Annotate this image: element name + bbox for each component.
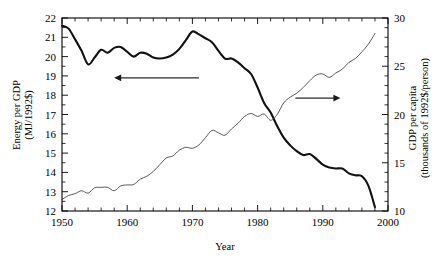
left-axis-title-line1: Energy per GDP <box>11 80 22 150</box>
left-tick-label: 22 <box>45 12 56 24</box>
right-axis-title-line1: GDP per capita <box>407 85 418 150</box>
plot-frame <box>62 18 388 211</box>
x-tick-label: 2000 <box>377 216 400 228</box>
right-tick-label: 10 <box>394 205 406 217</box>
right-axis-title-line2: (thousands of 1992$/person) <box>419 57 431 178</box>
x-axis-title: Year <box>215 241 235 252</box>
axis-ticks <box>62 18 388 211</box>
x-tick-label: 1980 <box>247 216 270 228</box>
energy-gdp-line-chart: 1950196019701980199020001213141516171819… <box>0 0 436 259</box>
left-tick-label: 12 <box>45 205 56 217</box>
series-line-energy-per-gdp <box>62 26 375 207</box>
left-tick-label: 19 <box>45 70 57 82</box>
x-tick-label: 1960 <box>116 216 139 228</box>
series-line-gdp-per-capita <box>62 33 375 199</box>
left-tick-label: 17 <box>45 109 57 121</box>
arrow-head-left <box>114 75 121 82</box>
left-tick-label: 13 <box>45 186 57 198</box>
data-series <box>62 26 375 207</box>
left-axis-title-line2: (MJ/1992$) <box>23 90 35 140</box>
right-tick-label: 25 <box>394 60 406 72</box>
x-tick-label: 1970 <box>181 216 204 228</box>
arrow-head-right <box>333 95 340 102</box>
left-tick-label: 14 <box>45 166 57 178</box>
left-arrow-annotation <box>114 75 199 82</box>
right-tick-label: 15 <box>394 157 406 169</box>
annotation-arrows <box>114 75 340 102</box>
left-tick-label: 18 <box>45 89 57 101</box>
axis-tick-labels: 1950196019701980199020001213141516171819… <box>45 12 406 228</box>
right-tick-label: 20 <box>394 109 406 121</box>
left-tick-label: 16 <box>45 128 57 140</box>
left-tick-label: 20 <box>45 51 57 63</box>
left-tick-label: 15 <box>45 147 57 159</box>
chart-figure: 1950196019701980199020001213141516171819… <box>0 0 436 259</box>
x-tick-label: 1990 <box>312 216 335 228</box>
left-tick-label: 21 <box>45 31 56 43</box>
right-arrow-annotation <box>295 95 340 102</box>
right-tick-label: 30 <box>394 12 406 24</box>
x-tick-label: 1950 <box>51 216 74 228</box>
